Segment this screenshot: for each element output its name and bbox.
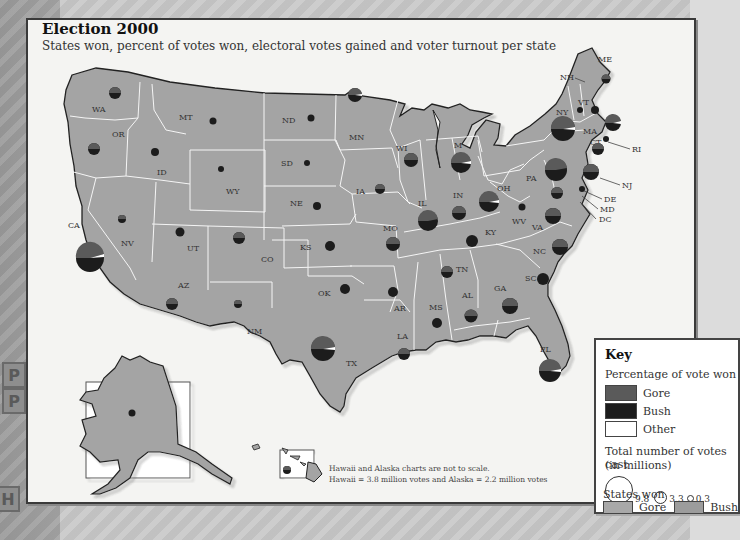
state-label-wa: WA [92,105,106,114]
state-label-ma: MA [583,127,597,136]
pie-tx [311,336,335,361]
state-label-fl: FL [540,345,552,354]
state-label-mn: MN [349,133,364,142]
state-label-tx: TX [346,359,357,368]
pie-wa [109,87,121,99]
state-label-pa: PA [526,174,537,183]
state-label-va: VA [531,223,543,232]
state-label-or: OR [112,130,126,139]
key-item-other-pct: Other [605,421,675,437]
state-label-vt: VT [577,98,590,107]
state-label-nh: NH [560,73,574,82]
state-label-wy: WY [226,187,240,196]
pie-tn [441,266,453,278]
pie-al [465,310,478,323]
state-label-sc: SC [525,274,537,283]
pie-ne [313,202,321,210]
pie-ca [76,242,104,272]
state-label-nj: NJ [622,181,632,190]
state-label-oh: OH [497,184,511,193]
pie-ri [603,136,609,142]
state-label-nd: ND [282,116,295,125]
pie-id [151,148,159,156]
pie-ut [176,228,185,237]
pie-co [233,232,245,244]
state-label-mt: MT [179,113,193,122]
state-label-la: LA [397,332,408,341]
state-label-nv: NV [121,239,134,248]
state-label-wi: WI [396,144,407,153]
pie-or [88,143,100,155]
pie-mo [386,237,400,251]
pie-nm [234,300,242,308]
pie-mn [348,88,362,102]
state-label-ks: KS [300,243,311,252]
state-label-ga: GA [494,284,506,293]
pct-heading: Percentage of vote won [605,368,736,381]
pie-mi [451,152,471,173]
pie-il [418,210,438,231]
state-label-ri: RI [632,145,641,154]
state-label-nm: NM [247,327,262,336]
key-title: Key [605,347,632,362]
pie-fl [539,359,561,382]
state-label-ms: MS [429,303,443,312]
state-label-ia: IA [356,187,365,196]
pie-sc [537,273,549,285]
pie-nh [591,106,599,114]
state-label-tn: TN [456,265,468,274]
key-item-gore-pct: Gore [605,385,670,401]
pie-az [166,298,178,310]
pie-de [579,186,585,192]
state-label-de: DE [604,195,616,204]
state-label-mo: MO [383,224,398,233]
alaska-hawaii-note: Hawaii and Alaska charts are not to scal… [329,463,547,485]
state-label-nc: NC [533,247,546,256]
bush-won-swatch [674,501,704,514]
state-label-il: IL [418,199,427,208]
pie-ak [129,410,136,417]
pie-wv [519,204,526,211]
pie-pa [545,158,567,181]
pie-ks [325,241,335,251]
state-label-ne: NE [290,199,303,208]
pie-md [551,187,563,199]
key-item-bush-pct: Bush [605,403,671,419]
hawaii [306,462,322,482]
state-label-ny: NY [556,108,569,117]
gore-swatch [605,385,637,401]
pie-nj [583,164,599,180]
pie-ny [551,116,575,141]
state-label-me: ME [598,55,612,64]
pie-ct [592,143,604,155]
state-label-co: CO [261,255,274,264]
state-label-ut: UT [187,244,200,253]
pie-va [545,208,561,224]
contiguous-us [64,48,610,412]
pie-sd [304,160,310,166]
pie-nv [118,215,126,223]
pie-ga [502,298,518,314]
won-legend: Gore Bush [603,501,738,514]
state-label-az: AZ [177,281,190,290]
pie-vt [577,107,583,113]
state-label-ok: OK [318,289,332,298]
bush-swatch [605,403,637,419]
state-label-wv: WV [512,217,526,226]
state-label-ar: AR [393,304,407,313]
state-label-in: IN [453,191,463,200]
pie-ok [340,284,350,294]
pie-in [452,206,466,220]
pie-wy [218,166,224,172]
pie-mt [210,118,217,125]
state-label-al: AL [461,291,474,300]
gore-won-swatch [603,501,633,514]
note-line-1: Hawaii and Alaska charts are not to scal… [329,463,547,474]
pie-hi [283,466,291,474]
state-label-ca: CA [68,221,80,230]
state-label-dc: DC [599,215,612,224]
pie-me [602,75,611,84]
won-heading: States won [603,488,665,501]
pie-ma [605,114,621,131]
state-label-md: MD [600,205,615,214]
